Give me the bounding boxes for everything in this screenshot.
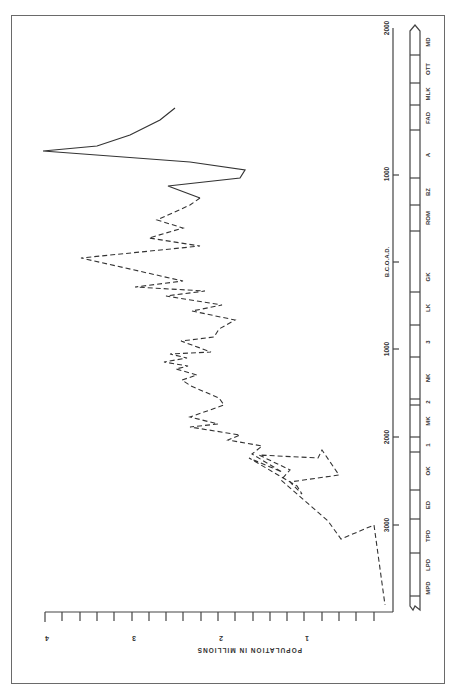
period-tpd: TPD <box>425 529 431 542</box>
period-rom: ROM <box>425 211 431 225</box>
period-fad: FAD <box>425 111 431 124</box>
period-ok: OK <box>425 466 431 476</box>
period-lpd: LPD <box>425 558 431 571</box>
period-mpd: MPD <box>425 581 431 595</box>
period-a: A <box>425 152 431 157</box>
period-3: 3 <box>425 340 431 344</box>
time-label-1000-ad: 1000 <box>383 166 390 181</box>
period-1: 1 <box>425 443 431 447</box>
time-label-3000-bc: 3000 <box>383 517 390 532</box>
time-label-1000-bc: 1000 <box>383 341 390 356</box>
pop-label-1: 1 <box>305 635 309 642</box>
period-labels: MD OTT MLK FAD A BZ ROM GK LK 3 NK 2 MK … <box>425 37 431 595</box>
population-chart: 4 3 2 1 POPULATION IN MILLIONS 2000 1000… <box>0 0 458 697</box>
period-band <box>410 25 420 610</box>
population-axis-title: POPULATION IN MILLIONS <box>197 647 302 654</box>
period-nk: NK <box>425 373 431 382</box>
time-tick-labels: 2000 1000 B.C.O.A.D. 1000 2000 3000 <box>383 20 390 532</box>
time-label-bc-ad: B.C.O.A.D. <box>384 247 390 278</box>
population-axis <box>45 612 393 622</box>
population-line-dashed <box>81 198 385 605</box>
pop-label-4: 4 <box>45 635 49 642</box>
time-label-2000-bc: 2000 <box>383 429 390 444</box>
period-ed: ED <box>425 500 431 509</box>
population-line-solid <box>43 108 245 198</box>
period-ott: OTT <box>425 63 431 75</box>
period-gk: GK <box>425 272 431 282</box>
pop-label-2: 2 <box>219 635 223 642</box>
time-label-2000-ad: 2000 <box>383 20 390 35</box>
period-mk: MK <box>425 416 431 426</box>
period-bz: BZ <box>425 188 431 196</box>
period-lk: LK <box>425 303 431 312</box>
population-tick-labels: 4 3 2 1 POPULATION IN MILLIONS <box>45 635 309 654</box>
period-md: MD <box>425 37 431 47</box>
period-2: 2 <box>425 400 431 404</box>
period-mlk: MLK <box>425 87 431 101</box>
pop-label-3: 3 <box>132 635 136 642</box>
time-axis <box>393 28 399 612</box>
